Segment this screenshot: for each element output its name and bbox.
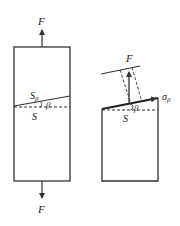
- angle-arc: [130, 104, 133, 110]
- cross-section-label: S: [32, 111, 37, 122]
- left-bar-figure: F F Sβ β S: [14, 15, 70, 215]
- stress-arrow: [140, 98, 156, 101]
- bar-outline: [14, 47, 70, 181]
- stress-label: σβ: [162, 91, 171, 104]
- force-label: F: [125, 52, 133, 64]
- angle-label: β: [45, 100, 51, 110]
- diagram-canvas: F F Sβ β S σβ F β S: [0, 0, 180, 226]
- bottom-force-label: F: [37, 203, 45, 215]
- dashed-projection-right: [132, 68, 142, 103]
- top-force-label: F: [37, 15, 45, 27]
- angle-label: β: [133, 103, 139, 113]
- angle-arc: [40, 102, 42, 108]
- cross-section-label: S: [123, 113, 128, 124]
- right-free-body-figure: σβ F β S: [101, 52, 171, 181]
- inclined-section-label: Sβ: [30, 90, 39, 103]
